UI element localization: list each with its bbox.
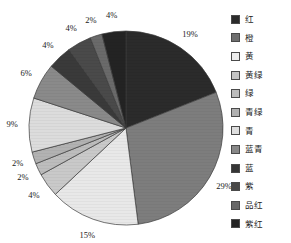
legend-swatch-icon <box>231 15 240 24</box>
legend-item-label: 紫红 <box>245 220 263 229</box>
pie-slice-percent-label: 19% <box>182 29 198 38</box>
legend-item-label: 青绿 <box>245 108 263 117</box>
legend-swatch-icon <box>231 145 240 154</box>
pie-slice-percent-label: 6% <box>20 69 31 78</box>
pie-slice-percent-label: 2% <box>12 159 23 168</box>
legend-item-label: 蓝青 <box>245 145 263 154</box>
pie-slice-percent-label: 4% <box>106 11 117 20</box>
legend-item[interactable]: 橙 <box>231 29 291 48</box>
legend-item[interactable]: 青 <box>231 122 291 141</box>
pie-chart-figure: 19%29%15%4%2%2%9%6%4%4%2%4% 红橙黄黄绿绿青绿青蓝青蓝… <box>0 0 291 243</box>
pie-slice-percent-label: 2% <box>17 172 28 181</box>
legend-item-label: 品红 <box>245 201 263 210</box>
pie-slice-percent-label: 9% <box>6 120 17 129</box>
legend-item-label: 黄 <box>245 52 254 61</box>
legend-swatch-icon <box>231 108 240 117</box>
legend-item-label: 红 <box>245 15 254 24</box>
legend-item[interactable]: 绿 <box>231 84 291 103</box>
pie-slice-percent-label: 15% <box>80 231 96 240</box>
legend-item[interactable]: 黄绿 <box>231 66 291 85</box>
pie-slice-percent-label: 2% <box>85 15 96 24</box>
pie-slice-percent-label: 4% <box>65 24 76 33</box>
legend-item-label: 绿 <box>245 89 254 98</box>
legend-swatch-icon <box>231 52 240 61</box>
legend-item-label: 紫 <box>245 182 254 191</box>
legend-item[interactable]: 蓝 <box>231 159 291 178</box>
legend-item-label: 橙 <box>245 34 254 43</box>
legend: 红橙黄黄绿绿青绿青蓝青蓝紫品红紫红 <box>231 10 291 238</box>
pie-plot-area: 19%29%15%4%2%2%9%6%4%4%2%4% <box>0 0 228 243</box>
legend-swatch-icon <box>231 219 240 228</box>
legend-item-label: 青 <box>245 127 254 136</box>
pie-slice-percent-label: 4% <box>28 191 39 200</box>
legend-item[interactable]: 红 <box>231 10 291 29</box>
legend-swatch-icon <box>231 33 240 42</box>
pie-slices-texture <box>29 31 223 225</box>
legend-swatch-icon <box>231 182 240 191</box>
legend-item[interactable]: 品红 <box>231 196 291 215</box>
pie-slice-percent-label: 4% <box>42 41 53 50</box>
legend-swatch-icon <box>231 71 240 80</box>
legend-swatch-icon <box>231 164 240 173</box>
pie-slice-percent-label: 29% <box>216 182 232 191</box>
legend-item[interactable]: 蓝青 <box>231 140 291 159</box>
legend-swatch-icon <box>231 126 240 135</box>
legend-swatch-icon <box>231 201 240 210</box>
legend-item-label: 蓝 <box>245 164 254 173</box>
legend-item[interactable]: 紫 <box>231 177 291 196</box>
legend-item[interactable]: 紫红 <box>231 215 291 234</box>
legend-swatch-icon <box>231 89 240 98</box>
legend-item-label: 黄绿 <box>245 71 263 80</box>
legend-item[interactable]: 黄 <box>231 47 291 66</box>
legend-item[interactable]: 青绿 <box>231 103 291 122</box>
